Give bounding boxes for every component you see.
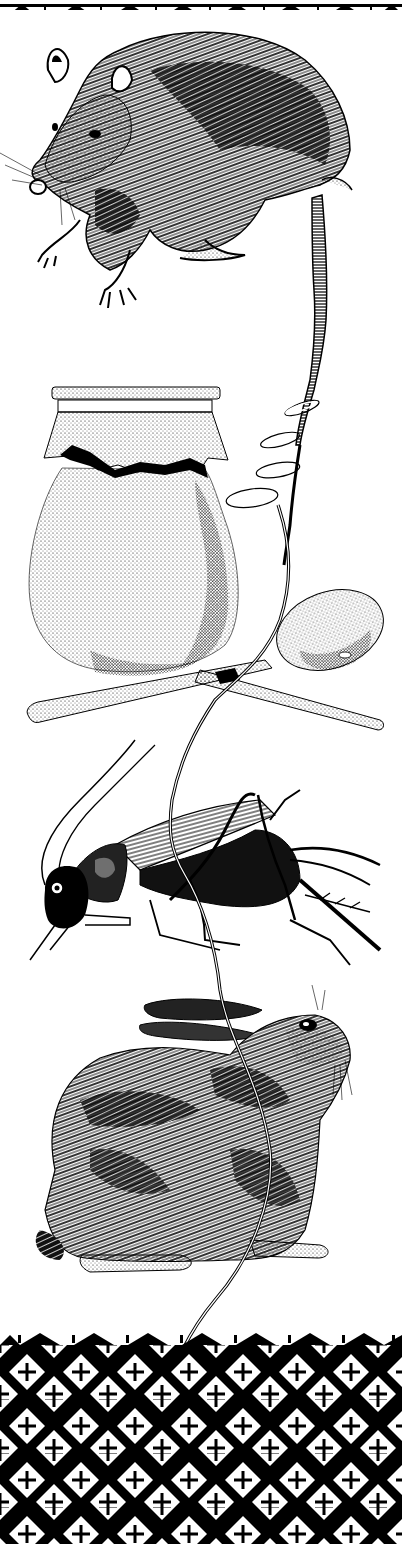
rabbit-drawing xyxy=(36,985,352,1272)
jar-drawing xyxy=(29,387,238,676)
opossum-tail xyxy=(296,195,327,445)
opossum-drawing xyxy=(0,32,352,308)
diamond-cross-pattern-icon xyxy=(0,1333,402,1544)
bottom-decorative-pattern xyxy=(0,1333,402,1544)
cricket-drawing xyxy=(30,740,380,965)
illustration-canvas xyxy=(0,0,414,1544)
